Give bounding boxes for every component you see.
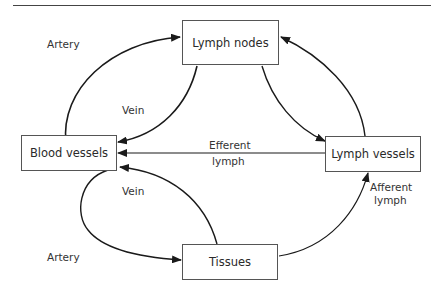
- node-blood-vessels: Blood vessels: [21, 135, 117, 171]
- label-efferent-line1: Efferent: [209, 139, 251, 151]
- edge-afferent-lymph: [279, 173, 368, 256]
- node-tissues: Tissues: [182, 244, 278, 280]
- edge-lymph-nodes-to-lymph-vessels: [262, 66, 325, 141]
- label-artery-top: Artery: [47, 38, 80, 50]
- node-lymph-nodes: Lymph nodes: [182, 20, 279, 65]
- edge-vein-from-tissues: [120, 167, 217, 244]
- node-lymph-nodes-label: Lymph nodes: [192, 36, 268, 50]
- node-lymph-vessels-label: Lymph vessels: [331, 147, 415, 161]
- edge-artery-to-lymph-nodes: [66, 37, 180, 143]
- label-afferent-line2: lymph: [374, 194, 407, 206]
- node-blood-vessels-label: Blood vessels: [30, 146, 108, 160]
- label-efferent-line2: lymph: [212, 155, 245, 167]
- label-vein-top: Vein: [122, 104, 144, 116]
- edge-artery-to-tissues: [81, 170, 181, 260]
- node-tissues-label: Tissues: [209, 255, 251, 269]
- edge-lymph-vessels-to-lymph-nodes: [281, 37, 365, 136]
- node-lymph-vessels: Lymph vessels: [325, 136, 421, 172]
- label-artery-bottom: Artery: [47, 251, 80, 263]
- label-vein-bottom: Vein: [122, 185, 144, 197]
- label-afferent-line1: Afferent: [370, 181, 412, 193]
